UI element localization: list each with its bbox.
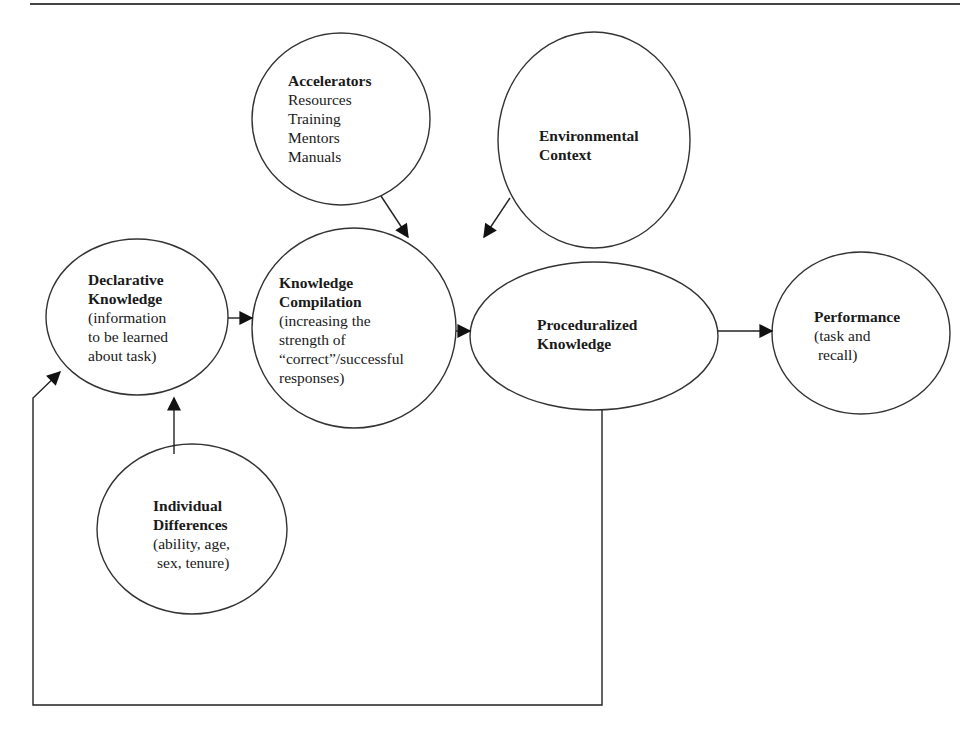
arrow-accelerators-to-compilation	[381, 196, 408, 237]
diagram-canvas	[0, 0, 975, 736]
proceduralized-knowledge-label: Proceduralized Knowledge	[537, 315, 637, 353]
declarative-knowledge-label: Declarative Knowledge (information to be…	[88, 270, 168, 365]
accelerators-label: Accelerators Resources Training Mentors …	[288, 71, 371, 166]
declarative-knowledge-title: Declarative	[88, 270, 168, 289]
knowledge-compilation-desc: responses)	[279, 368, 404, 387]
accelerators-item: Resources	[288, 90, 371, 109]
environmental-context-label: Environmental Context	[539, 126, 639, 164]
accelerators-item: Training	[288, 109, 371, 128]
knowledge-compilation-desc: (increasing the	[279, 311, 404, 330]
knowledge-compilation-title: Knowledge	[279, 273, 404, 292]
individual-differences-label: Individual Differences (ability, age, se…	[153, 496, 230, 572]
knowledge-compilation-title: Compilation	[279, 292, 404, 311]
accelerators-item: Mentors	[288, 128, 371, 147]
performance-label: Performance (task and recall)	[814, 307, 900, 364]
performance-desc: (task and	[814, 326, 900, 345]
individual-differences-desc: (ability, age,	[153, 534, 230, 553]
declarative-knowledge-desc: about task)	[88, 346, 168, 365]
proceduralized-knowledge-title: Proceduralized	[537, 315, 637, 334]
accelerators-item: Manuals	[288, 147, 371, 166]
knowledge-compilation-label: Knowledge Compilation (increasing the st…	[279, 273, 404, 387]
declarative-knowledge-desc: (information	[88, 308, 168, 327]
arrow-environment-to-proceduralized	[484, 198, 510, 237]
knowledge-compilation-desc: strength of	[279, 330, 404, 349]
accelerators-title: Accelerators	[288, 71, 371, 90]
performance-title: Performance	[814, 307, 900, 326]
declarative-knowledge-title: Knowledge	[88, 289, 168, 308]
environmental-context-title: Context	[539, 145, 639, 164]
environmental-context-title: Environmental	[539, 126, 639, 145]
individual-differences-title: Individual	[153, 496, 230, 515]
proceduralized-knowledge-title: Knowledge	[537, 334, 637, 353]
individual-differences-desc: sex, tenure)	[153, 553, 230, 572]
declarative-knowledge-desc: to be learned	[88, 327, 168, 346]
individual-differences-title: Differences	[153, 515, 230, 534]
performance-desc: recall)	[814, 345, 900, 364]
knowledge-compilation-desc: “correct”/successful	[279, 349, 404, 368]
